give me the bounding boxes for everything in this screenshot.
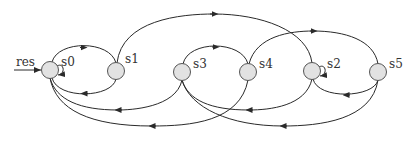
state-label-s1: s1 bbox=[125, 52, 139, 66]
state-label-s0: s0 bbox=[61, 55, 75, 69]
state-node-s3 bbox=[174, 64, 191, 81]
state-node-s0 bbox=[42, 62, 59, 79]
state-label-s2: s2 bbox=[327, 57, 341, 71]
state-node-s4 bbox=[240, 64, 257, 81]
edge-s5-s2 bbox=[313, 79, 378, 94]
state-label-s4: s4 bbox=[259, 57, 273, 71]
edge-s4-s0 bbox=[50, 78, 248, 126]
edge-s1-s0 bbox=[52, 78, 116, 94]
state-label-s5: s5 bbox=[389, 57, 403, 71]
reset-label: res bbox=[16, 55, 35, 69]
edge-s3-s0 bbox=[50, 78, 182, 110]
state-label-s3: s3 bbox=[193, 57, 207, 71]
state-diagram: res s0 s1 s3 s4 s2 s5 bbox=[0, 0, 409, 143]
edge-s1-s2 bbox=[117, 14, 312, 63]
state-node-s5 bbox=[370, 64, 387, 81]
diagram-svg: res s0 s1 s3 s4 s2 s5 bbox=[0, 0, 409, 143]
state-node-s1 bbox=[108, 63, 125, 80]
state-node-s2 bbox=[304, 63, 321, 80]
